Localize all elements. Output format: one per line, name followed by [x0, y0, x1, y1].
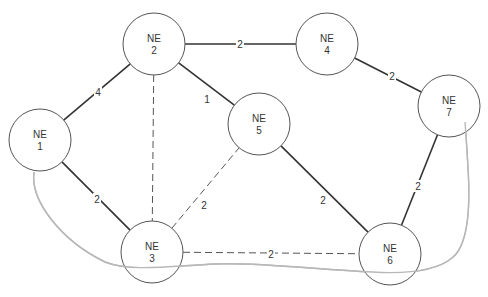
node-number-label: 5 [256, 125, 262, 136]
edge-weight-label: 2 [94, 194, 100, 205]
edge-weight-label: 1 [204, 94, 210, 105]
node-number-label: 6 [387, 255, 393, 266]
node-type-label: NE [383, 243, 397, 254]
network-diagram: NE1NE2NE3NE4NE5NE6NE7 421222222 [0, 0, 488, 297]
node-type-label: NE [33, 129, 47, 140]
edge-weight-label: 2 [237, 39, 243, 50]
edge-weight-label: 2 [415, 181, 421, 192]
node-number-label: 7 [446, 107, 452, 118]
edge-ne2-ne3 [152, 75, 153, 221]
node-number-label: 1 [37, 141, 43, 152]
node-circle[interactable] [228, 93, 290, 155]
node-circle[interactable] [9, 109, 71, 171]
node-circle[interactable] [296, 13, 358, 75]
node-type-label: NE [442, 95, 456, 106]
edge-weight-label: 2 [389, 71, 395, 82]
node-ne1[interactable]: NE1 [9, 109, 71, 171]
node-number-label: 3 [149, 253, 155, 264]
edge-weight-label: 2 [268, 249, 274, 260]
node-ne2[interactable]: NE2 [123, 13, 185, 75]
node-ne6[interactable]: NE6 [359, 223, 421, 285]
node-ne7[interactable]: NE7 [418, 75, 480, 137]
node-ne3[interactable]: NE3 [121, 221, 183, 283]
node-circle[interactable] [123, 13, 185, 75]
node-type-label: NE [145, 241, 159, 252]
node-type-label: NE [252, 113, 266, 124]
node-circle[interactable] [418, 75, 480, 137]
node-circle[interactable] [121, 221, 183, 283]
node-number-label: 2 [151, 45, 157, 56]
node-number-label: 4 [324, 45, 330, 56]
edge-weight-label: 4 [95, 87, 101, 98]
node-ne5[interactable]: NE5 [228, 93, 290, 155]
edge-weight-label: 2 [201, 200, 207, 211]
edge-ne5-ne6 [281, 146, 368, 232]
edge-ne3-ne5 [172, 148, 239, 228]
node-type-label: NE [320, 33, 334, 44]
node-circle[interactable] [359, 223, 421, 285]
edge-weight-label: 2 [320, 195, 326, 206]
nodes: NE1NE2NE3NE4NE5NE6NE7 [9, 13, 480, 285]
node-ne4[interactable]: NE4 [296, 13, 358, 75]
node-type-label: NE [147, 33, 161, 44]
